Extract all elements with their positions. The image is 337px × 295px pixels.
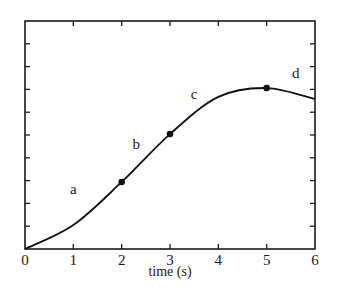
x-tick-label: 0 <box>21 252 29 268</box>
x-tick-label: 2 <box>118 252 126 268</box>
data-curve <box>25 88 315 249</box>
segment-label: c <box>191 86 198 102</box>
segment-label: a <box>70 181 77 197</box>
segment-label: b <box>132 136 140 152</box>
data-point-marker <box>118 179 125 186</box>
x-axis-title: time (s) <box>148 264 191 280</box>
x-tick-label: 1 <box>70 252 78 268</box>
chart: 0123456 abcd time (s) <box>0 0 337 295</box>
data-point-marker <box>167 131 174 138</box>
x-tick-label: 4 <box>215 252 223 268</box>
data-point-marker <box>263 85 270 92</box>
x-tick-label: 5 <box>263 252 271 268</box>
segment-labels: abcd <box>70 65 300 197</box>
segment-label: d <box>292 65 300 81</box>
x-tick-label: 6 <box>311 252 319 268</box>
